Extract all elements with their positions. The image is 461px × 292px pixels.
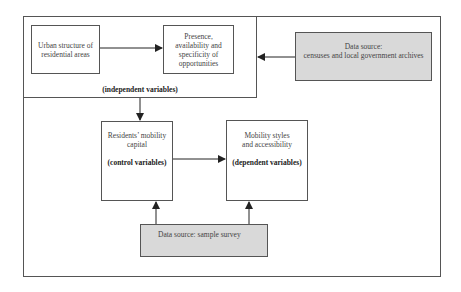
arrows-layer bbox=[0, 0, 461, 292]
